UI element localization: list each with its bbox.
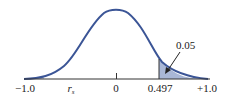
annotation-arrow-line (168, 52, 180, 70)
tick-label-left: −1.0 (15, 83, 35, 94)
tick-label-critical: 0.497 (148, 83, 173, 94)
tick-label-zero: 0 (113, 83, 119, 94)
axis-variable-label: rs (67, 83, 74, 97)
tail-area-annotation: 0.05 (176, 40, 195, 51)
tick-label-right: +1.0 (197, 83, 217, 94)
var-sub: s (72, 88, 75, 96)
